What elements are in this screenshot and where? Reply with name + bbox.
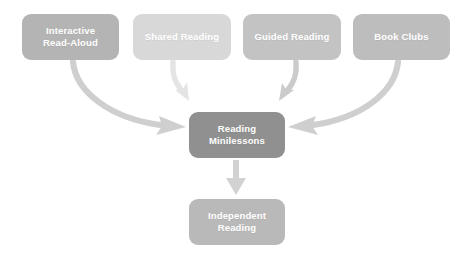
node-interactive-read-aloud[interactable]: Interactive Read-Aloud	[22, 14, 119, 60]
node-label: Reading Minilessons	[209, 123, 265, 148]
arrow-interactive-to-minilessons	[73, 62, 186, 135]
diagram-canvas: Interactive Read-Aloud Shared Reading Gu…	[0, 0, 467, 261]
node-shared-reading[interactable]: Shared Reading	[133, 14, 231, 60]
node-reading-minilessons[interactable]: Reading Minilessons	[189, 112, 285, 158]
arrow-minilessons-to-independent	[226, 160, 246, 195]
node-book-clubs[interactable]: Book Clubs	[353, 14, 450, 60]
node-guided-reading[interactable]: Guided Reading	[243, 14, 341, 60]
arrow-shared-to-minilessons	[173, 62, 189, 101]
node-label: Book Clubs	[374, 31, 428, 44]
node-independent-reading[interactable]: Independent Reading	[189, 199, 285, 245]
arrow-bookclubs-to-minilessons	[288, 62, 398, 135]
node-label: Interactive Read-Aloud	[43, 25, 98, 50]
node-label: Independent Reading	[208, 210, 266, 235]
arrow-guided-to-minilessons	[279, 62, 296, 101]
node-label: Shared Reading	[145, 31, 219, 44]
node-label: Guided Reading	[255, 31, 330, 44]
